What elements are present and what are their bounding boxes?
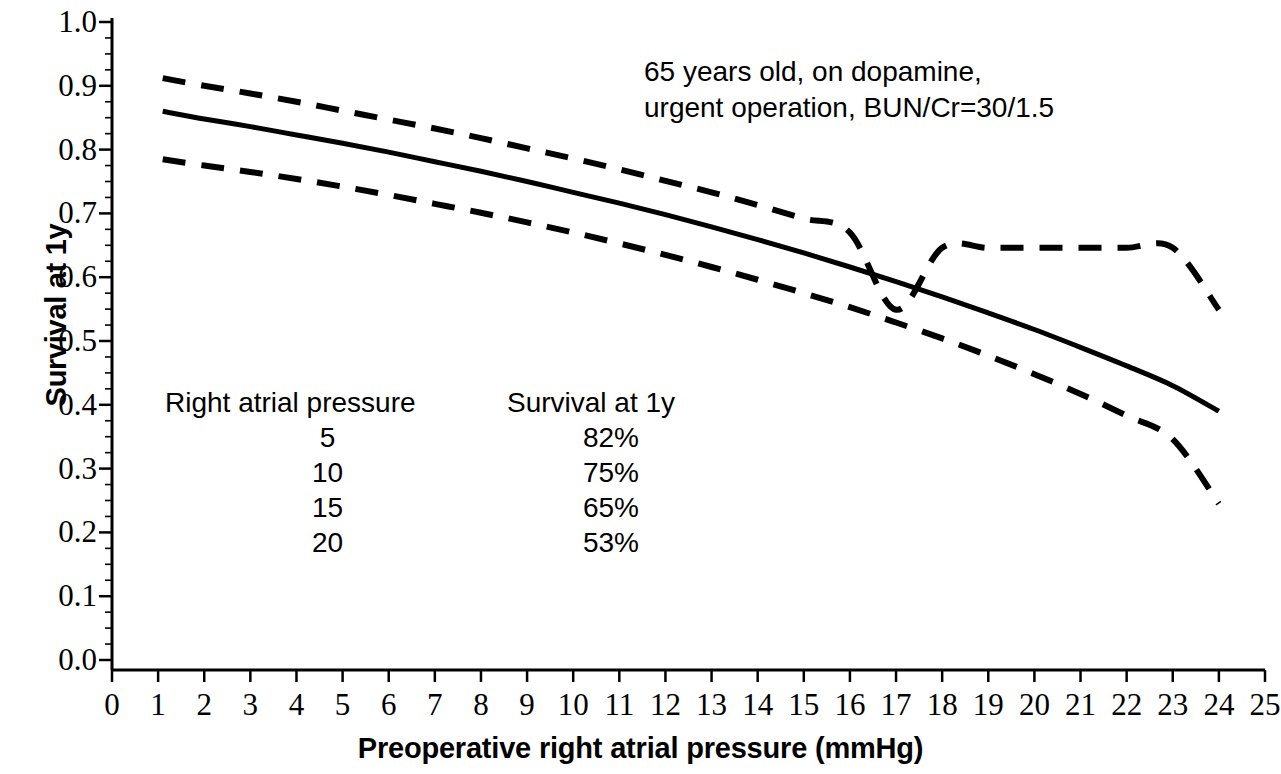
x-axis-title: Preoperative right atrial pressure (mmHg… xyxy=(0,732,1281,764)
table-cell-pressure: 20 xyxy=(160,525,495,560)
y-tick-label: 0.1 xyxy=(0,580,97,611)
predicted-survival-curve xyxy=(163,111,1219,411)
summary-table: Right atrial pressure Survival at 1y 582… xyxy=(160,385,727,560)
table-cell-pressure: 15 xyxy=(160,490,495,525)
y-tick-label: 0.8 xyxy=(0,134,97,165)
annotation-line-2: urgent operation, BUN/Cr=30/1.5 xyxy=(644,90,1054,126)
table-header-row: Right atrial pressure Survival at 1y xyxy=(160,385,727,420)
table-body: 582%1075%1565%2053% xyxy=(160,420,727,560)
table-row: 1565% xyxy=(160,490,727,525)
y-tick-label: 0.3 xyxy=(0,453,97,484)
survival-curve-figure: 1.00.90.80.70.60.50.40.30.20.10.0 012345… xyxy=(0,0,1281,774)
chart-annotation: 65 years old, on dopamine, urgent operat… xyxy=(644,54,1054,126)
table-row: 1075% xyxy=(160,455,727,490)
table-header-pressure: Right atrial pressure xyxy=(160,385,495,420)
y-tick-label: 0.0 xyxy=(0,644,97,675)
table-cell-survival: 82% xyxy=(495,420,727,455)
table-header-survival: Survival at 1y xyxy=(495,385,727,420)
table-cell-pressure: 10 xyxy=(160,455,495,490)
table-cell-survival: 53% xyxy=(495,525,727,560)
inset-summary-table: Right atrial pressure Survival at 1y 582… xyxy=(160,385,727,560)
y-tick-label: 0.9 xyxy=(0,70,97,101)
y-axis-title: Survival at 1y xyxy=(41,205,71,425)
table-cell-survival: 65% xyxy=(495,490,727,525)
x-tick-label: 25 xyxy=(1235,689,1281,720)
y-tick-label: 1.0 xyxy=(0,6,97,37)
table-row: 582% xyxy=(160,420,727,455)
table-cell-survival: 75% xyxy=(495,455,727,490)
table-cell-pressure: 5 xyxy=(160,420,495,455)
annotation-line-1: 65 years old, on dopamine, xyxy=(644,54,1054,90)
table-row: 2053% xyxy=(160,525,727,560)
y-tick-label: 0.2 xyxy=(0,516,97,547)
